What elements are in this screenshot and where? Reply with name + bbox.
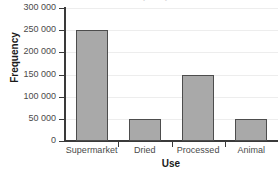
- y-axis-tick: [59, 30, 64, 31]
- chart-title: Frequency of use 2002: [64, 0, 278, 1]
- y-axis-tick-label: 100 000: [2, 91, 56, 101]
- y-axis-tick: [59, 119, 64, 120]
- bar: [235, 119, 267, 141]
- y-axis-tick-label: 150 000: [2, 69, 56, 79]
- y-axis-tick-label: 250 000: [2, 24, 56, 34]
- y-axis-tick: [59, 8, 64, 9]
- bar: [76, 30, 108, 141]
- y-axis-tick: [59, 52, 64, 53]
- y-axis-line: [64, 7, 66, 142]
- bar-chart: Frequency of use 2002 Frequency Use 050 …: [0, 0, 278, 173]
- x-axis-title: Use: [64, 158, 278, 169]
- gridline: [65, 8, 278, 9]
- bar: [182, 75, 214, 142]
- y-axis-tick: [59, 97, 64, 98]
- y-axis-tick-label: 300 000: [2, 2, 56, 12]
- x-axis-tick-label: Animal: [219, 145, 278, 155]
- y-axis-tick: [59, 75, 64, 76]
- bar: [129, 119, 161, 141]
- y-axis-tick-label: 0: [2, 135, 56, 145]
- y-axis-tick-label: 200 000: [2, 46, 56, 56]
- y-axis-tick: [59, 141, 64, 142]
- y-axis-tick-label: 50 000: [2, 113, 56, 123]
